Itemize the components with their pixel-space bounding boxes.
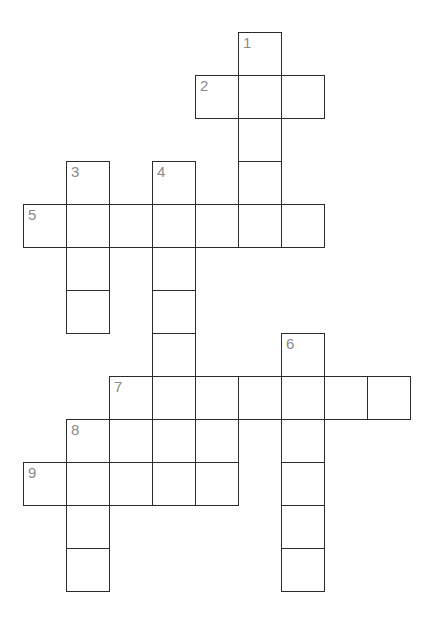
crossword-cell[interactable] — [66, 505, 110, 549]
crossword-cell[interactable]: 2 — [195, 75, 239, 119]
crossword-cell[interactable]: 3 — [66, 161, 110, 205]
crossword-cell[interactable] — [152, 419, 196, 463]
crossword-cell[interactable] — [195, 462, 239, 506]
crossword-cell[interactable] — [66, 247, 110, 291]
crossword-cell[interactable] — [195, 419, 239, 463]
crossword-cell[interactable] — [152, 290, 196, 334]
crossword-cell[interactable] — [152, 247, 196, 291]
cell-number-5: 5 — [28, 206, 36, 223]
cell-number-8: 8 — [71, 421, 79, 438]
cell-number-3: 3 — [71, 163, 79, 180]
crossword-cell[interactable] — [109, 204, 153, 248]
crossword-cell[interactable]: 9 — [23, 462, 67, 506]
crossword-cell[interactable] — [238, 376, 282, 420]
crossword-cell[interactable] — [195, 376, 239, 420]
crossword-cell[interactable] — [367, 376, 411, 420]
crossword-cell[interactable] — [238, 161, 282, 205]
crossword-cell[interactable] — [281, 419, 325, 463]
crossword-cell[interactable] — [281, 548, 325, 592]
crossword-cell[interactable] — [152, 204, 196, 248]
crossword-cell[interactable]: 6 — [281, 333, 325, 377]
cell-number-6: 6 — [286, 335, 294, 352]
cell-number-4: 4 — [157, 163, 165, 180]
crossword-cell[interactable] — [281, 505, 325, 549]
crossword-cell[interactable] — [66, 548, 110, 592]
crossword-cell[interactable] — [238, 75, 282, 119]
crossword-cell[interactable] — [66, 462, 110, 506]
crossword-cell[interactable] — [281, 376, 325, 420]
cell-number-9: 9 — [28, 464, 36, 481]
crossword-cell[interactable] — [152, 376, 196, 420]
crossword-cell[interactable] — [109, 462, 153, 506]
crossword-cell[interactable] — [66, 204, 110, 248]
crossword-cell[interactable] — [109, 419, 153, 463]
crossword-cell[interactable] — [152, 333, 196, 377]
cell-number-7: 7 — [114, 378, 122, 395]
crossword-cell[interactable]: 1 — [238, 32, 282, 76]
crossword-cell[interactable]: 7 — [109, 376, 153, 420]
crossword-cell[interactable] — [324, 376, 368, 420]
crossword-cell[interactable] — [195, 204, 239, 248]
crossword-cell[interactable] — [238, 118, 282, 162]
crossword-cell[interactable]: 4 — [152, 161, 196, 205]
crossword-cell[interactable] — [281, 75, 325, 119]
crossword-cell[interactable] — [281, 204, 325, 248]
crossword-cell[interactable] — [66, 290, 110, 334]
crossword-cell[interactable] — [152, 462, 196, 506]
cell-number-2: 2 — [200, 77, 208, 94]
crossword-cell[interactable]: 5 — [23, 204, 67, 248]
cell-number-1: 1 — [243, 34, 251, 51]
crossword-cell[interactable]: 8 — [66, 419, 110, 463]
crossword-cell[interactable] — [238, 204, 282, 248]
crossword-grid: 123456789 — [0, 0, 426, 634]
crossword-cell[interactable] — [281, 462, 325, 506]
